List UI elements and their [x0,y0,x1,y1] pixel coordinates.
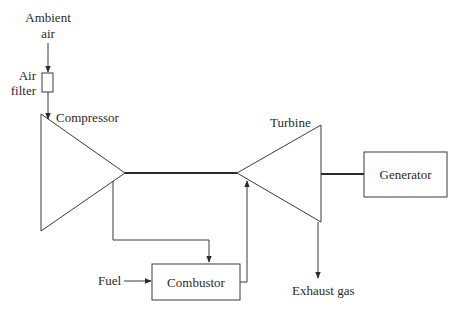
compressor-shape [41,114,125,231]
compressor-to-combustor-arrow [113,181,209,262]
ambient-air-label: Ambient [25,10,71,25]
turbine-label: Turbine [270,115,311,130]
exhaust-gas-label: Exhaust gas [292,283,354,298]
combustor-to-turbine-arrow [240,181,247,282]
air-filter-box [42,73,53,92]
compressor-label: Compressor [56,110,120,125]
air-filter-label-line2: filter [11,83,37,98]
ambient-air-label-line2: air [41,26,55,41]
turbine-shape [237,125,321,222]
combustor-label: Combustor [167,275,225,290]
air-filter-label: Air [19,68,37,83]
generator-label: Generator [380,167,433,182]
fuel-label: Fuel [98,273,122,288]
gas-turbine-diagram: Ambient air Air filter Compressor Turbin… [0,0,461,310]
